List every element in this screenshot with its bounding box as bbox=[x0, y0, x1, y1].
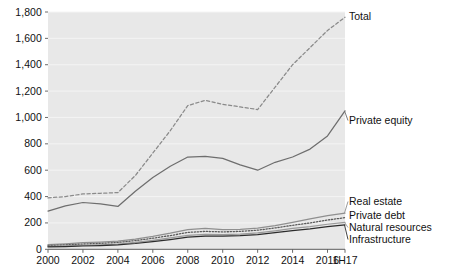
x-axis-ticks bbox=[48, 249, 345, 253]
y-tick-label: 800 bbox=[0, 138, 42, 149]
leader-line bbox=[345, 202, 349, 214]
y-tick-label: 400 bbox=[0, 191, 42, 202]
y-tick-label: 1,400 bbox=[0, 59, 42, 70]
y-tick-label: 1,600 bbox=[0, 33, 42, 44]
y-tick-label: 1,000 bbox=[0, 112, 42, 123]
series-label-private-debt: Private debt bbox=[349, 210, 405, 221]
y-tick-label: 1,200 bbox=[0, 86, 42, 97]
series-label-infrastructure: Infrastructure bbox=[349, 234, 411, 245]
y-tick-label: 0 bbox=[0, 244, 42, 255]
y-tick-label: 1,800 bbox=[0, 7, 42, 18]
y-tick-label: 600 bbox=[0, 165, 42, 176]
series-label-total: Total bbox=[349, 11, 371, 22]
y-tick-label: 200 bbox=[0, 217, 42, 228]
leader-line bbox=[345, 111, 349, 121]
series-label-private-equity: Private equity bbox=[349, 115, 413, 126]
plot-background bbox=[48, 12, 345, 249]
line-chart: 02004006008001,0001,2001,4001,6001,800 2… bbox=[0, 0, 457, 277]
series-label-natural-resources: Natural resources bbox=[349, 222, 432, 233]
series-label-real-estate: Real estate bbox=[349, 196, 402, 207]
label-leader-lines bbox=[345, 111, 349, 240]
x-tick-label: 1H17 bbox=[323, 255, 367, 266]
